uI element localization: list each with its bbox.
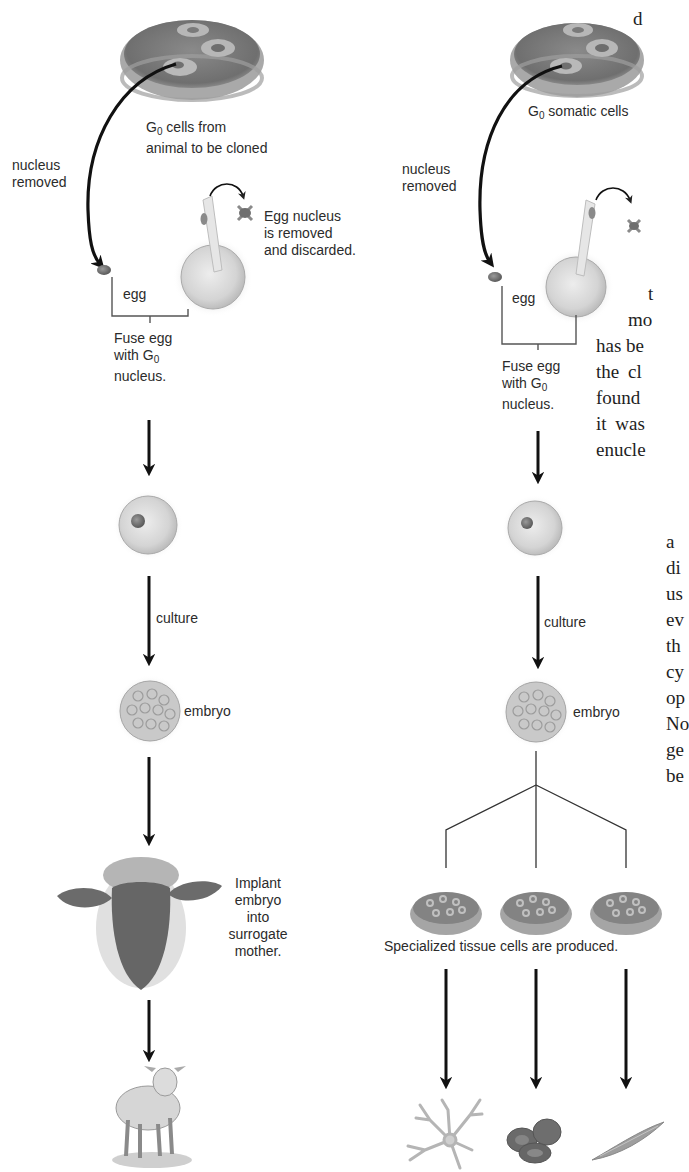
implant-line5: mother. xyxy=(235,943,282,959)
left-egg-label: egg xyxy=(123,286,146,303)
right-tissue-dish-2-icon xyxy=(500,892,572,935)
nucleus-removed-line2: removed xyxy=(402,178,456,194)
body-text-line: ev xyxy=(666,609,684,631)
source-label-line1: cells from xyxy=(162,119,226,135)
egg-nucleus-line2: is removed xyxy=(264,225,332,241)
left-discard-arrow xyxy=(210,184,243,196)
right-embryo-icon xyxy=(500,676,572,748)
body-text-line: enucle xyxy=(596,439,646,461)
left-egg-nucleus-label: Egg nucleus is removed and discarded. xyxy=(264,208,356,259)
left-donor-nucleus-icon xyxy=(97,265,111,275)
right-source-cells-label: G0 somatic cells xyxy=(528,103,628,124)
right-culture-label: culture xyxy=(544,614,586,631)
fuse-subscript: 0 xyxy=(154,354,160,365)
right-nerve-cell-icon xyxy=(408,1100,482,1168)
fuse-line2: with G xyxy=(114,347,154,363)
body-text-line: No xyxy=(666,713,689,735)
left-source-cells-label: G0 cells from animal to be cloned xyxy=(146,119,267,157)
body-text-line: a xyxy=(666,531,674,553)
right-micropipette-egg-icon xyxy=(538,200,614,325)
left-fused-cell-icon xyxy=(113,490,183,560)
left-egg-nucleus-discard-icon xyxy=(238,206,252,220)
left-fuse-label: Fuse egg with G0 nucleus. xyxy=(114,330,172,385)
body-text-line: t xyxy=(648,283,653,305)
left-nucleus-removed-label: nucleus removed xyxy=(12,157,66,191)
body-text-line: di xyxy=(666,557,681,579)
fuse-line1: Fuse egg xyxy=(502,358,560,374)
right-donor-nucleus-icon xyxy=(488,272,502,282)
right-discard-arrow xyxy=(596,188,630,200)
fuse-line1: Fuse egg xyxy=(114,330,172,346)
body-text-line: the cl xyxy=(596,361,642,383)
body-text-line: ge xyxy=(666,739,684,761)
body-text-line: has be xyxy=(596,335,644,357)
body-text-line: op xyxy=(666,687,685,709)
egg-nucleus-line3: and discarded. xyxy=(264,242,356,258)
right-tissue-dish-3-icon xyxy=(590,892,662,935)
body-text-line: it was xyxy=(596,413,645,435)
right-fused-cell-icon xyxy=(502,495,568,561)
left-lamb-icon xyxy=(112,1066,192,1168)
body-text-line: mo xyxy=(628,309,652,331)
source-label-line2: animal to be cloned xyxy=(146,140,267,156)
fuse-line2: with G xyxy=(502,375,542,391)
left-embryo-icon xyxy=(114,675,186,747)
body-text-line: cy xyxy=(666,661,684,683)
implant-line4: surrogate xyxy=(228,926,287,942)
fuse-subscript: 0 xyxy=(542,382,548,393)
right-muscle-cell-icon xyxy=(592,1122,664,1160)
g-letter: G xyxy=(528,103,539,119)
left-implant-label: Implant embryo into surrogate mother. xyxy=(222,875,294,960)
implant-line3: into xyxy=(247,909,270,925)
implant-line1: Implant xyxy=(235,875,281,891)
right-red-blood-cells-icon xyxy=(507,1119,561,1163)
body-text-line: th xyxy=(666,635,681,657)
right-specialized-cells-label: Specialized tissue cells are produced. xyxy=(384,938,618,955)
right-egg-nucleus-discard-icon xyxy=(628,220,640,232)
right-tissue-dish-1-icon xyxy=(410,892,482,935)
body-text-line: found xyxy=(596,387,640,409)
body-text-line: d xyxy=(633,8,643,30)
nucleus-removed-line1: nucleus xyxy=(402,161,450,177)
right-nucleus-removed-label: nucleus removed xyxy=(402,161,456,195)
right-branch-lines xyxy=(446,751,626,868)
left-sheep-head-icon xyxy=(57,857,222,990)
nucleus-removed-line1: nucleus xyxy=(12,157,60,173)
g-letter: G xyxy=(146,119,157,135)
source-label-rest: somatic cells xyxy=(544,103,628,119)
implant-line2: embryo xyxy=(235,892,282,908)
fuse-line3: nucleus. xyxy=(114,368,166,384)
left-embryo-label: embryo xyxy=(184,703,231,720)
body-text-line: us xyxy=(666,583,683,605)
body-text-line: be xyxy=(666,765,684,787)
right-fuse-label: Fuse egg with G0 nucleus. xyxy=(502,358,560,413)
nucleus-removed-line2: removed xyxy=(12,174,66,190)
left-culture-label: culture xyxy=(156,610,198,627)
right-petri-dish-icon xyxy=(510,23,644,97)
right-embryo-label: embryo xyxy=(573,704,620,721)
left-petri-dish-icon xyxy=(120,20,264,100)
fuse-line3: nucleus. xyxy=(502,396,554,412)
egg-nucleus-line1: Egg nucleus xyxy=(264,208,341,224)
right-egg-label: egg xyxy=(512,290,535,307)
